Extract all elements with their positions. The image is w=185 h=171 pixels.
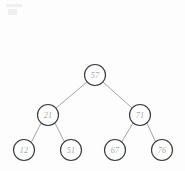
edge-left-to-rightleaf [55, 123, 65, 143]
binary-tree-diagram: 57 21 71 12 51 67 [0, 0, 185, 171]
node-label-leaf-1: 12 [20, 146, 29, 155]
node-label-leaf-4: 76 [158, 146, 167, 155]
edge-right-to-leftleaf [121, 123, 133, 143]
edge-left-to-leftleaf [31, 123, 41, 143]
edge-root-to-right [103, 82, 132, 108]
node-label-leaf-3: 67 [111, 146, 120, 155]
tree-node-root[interactable]: 57 [85, 65, 106, 86]
tree-node-leaf-2[interactable]: 51 [61, 140, 82, 161]
tree-node-leaf-3[interactable]: 67 [105, 140, 126, 161]
tree-node-right-child[interactable]: 71 [130, 105, 151, 126]
tree-node-leaf-1[interactable]: 12 [14, 140, 35, 161]
node-label-right-child: 71 [136, 111, 145, 120]
node-label-left-child: 21 [44, 111, 53, 120]
edge-root-to-left [56, 82, 87, 108]
node-group: 57 21 71 12 51 67 [14, 65, 173, 161]
tree-canvas: 57 21 71 12 51 67 [0, 0, 185, 171]
tree-node-left-child[interactable]: 21 [38, 105, 59, 126]
tree-node-leaf-4[interactable]: 76 [152, 140, 173, 161]
node-label-leaf-2: 51 [67, 146, 76, 155]
edge-right-to-rightleaf [147, 123, 156, 143]
node-label-root: 57 [91, 71, 100, 80]
